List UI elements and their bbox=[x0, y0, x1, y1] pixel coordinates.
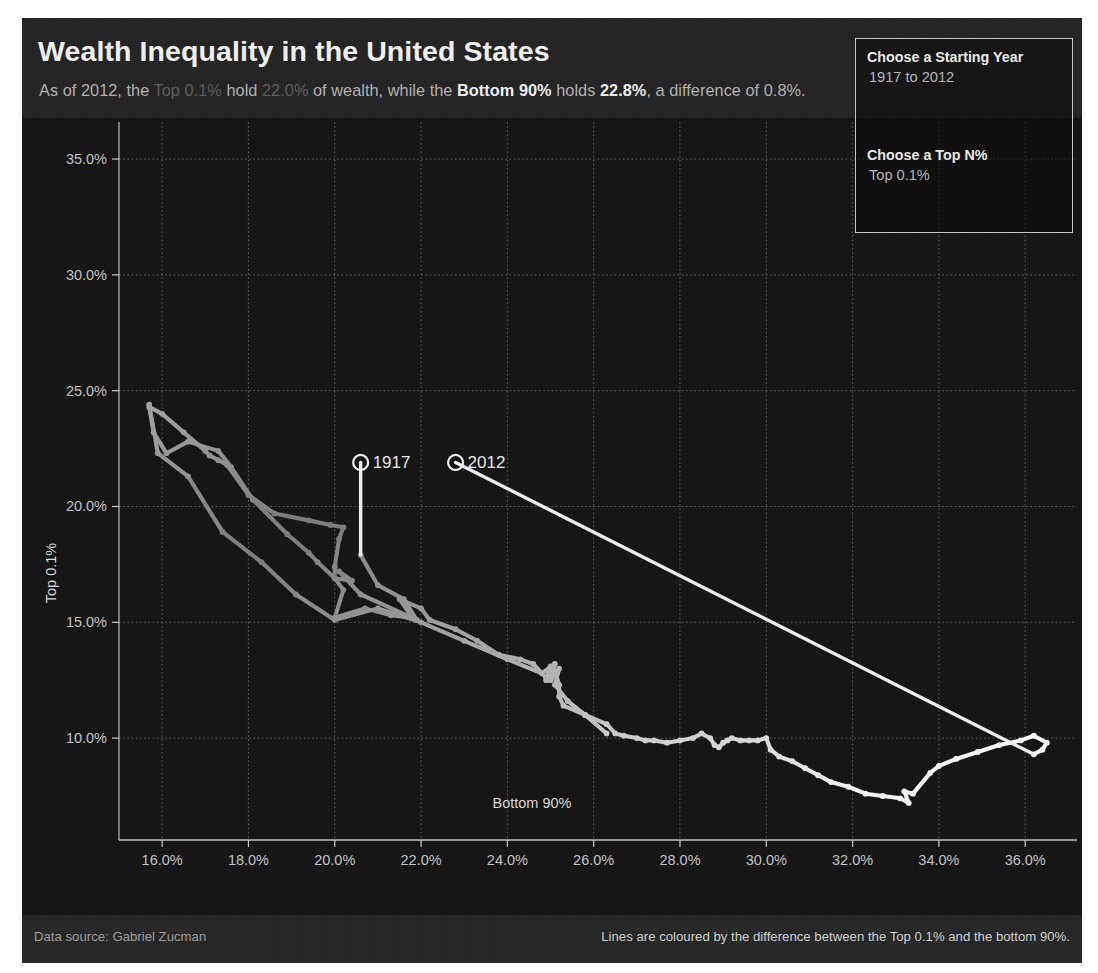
data-point-marker bbox=[1018, 738, 1024, 744]
data-point-marker bbox=[707, 735, 713, 741]
data-point-marker bbox=[927, 770, 933, 776]
data-point-marker bbox=[271, 511, 277, 517]
data-point-marker bbox=[306, 517, 312, 523]
data-point-marker bbox=[643, 738, 649, 744]
series-segment bbox=[296, 594, 335, 619]
data-point-marker bbox=[738, 738, 744, 744]
data-point-marker bbox=[185, 439, 191, 445]
data-point-marker bbox=[517, 656, 523, 662]
data-point-marker bbox=[906, 800, 912, 806]
data-point-marker bbox=[306, 550, 312, 556]
data-point-marker bbox=[146, 402, 152, 408]
data-point-marker bbox=[155, 450, 161, 456]
data-point-marker bbox=[996, 742, 1002, 748]
data-point-marker bbox=[418, 605, 424, 611]
data-point-marker bbox=[375, 605, 381, 611]
x-tick-label: 28.0% bbox=[659, 852, 700, 868]
data-point-marker bbox=[453, 626, 459, 632]
data-point-marker bbox=[336, 536, 342, 542]
data-point-marker bbox=[332, 575, 338, 581]
data-point-marker bbox=[328, 522, 334, 528]
data-point-marker bbox=[388, 612, 394, 618]
data-point-markers bbox=[146, 402, 1049, 806]
data-point-marker bbox=[202, 448, 208, 454]
controls-panel[interactable]: Choose a Starting Year 1917 to 2012 Choo… bbox=[855, 38, 1073, 233]
data-point-marker bbox=[151, 429, 157, 435]
data-point-marker bbox=[474, 638, 480, 644]
series-segment bbox=[978, 745, 1000, 752]
data-point-marker bbox=[789, 758, 795, 764]
data-point-marker bbox=[612, 731, 618, 737]
tick-marks bbox=[112, 159, 1025, 847]
data-point-marker bbox=[690, 735, 696, 741]
series-paths bbox=[149, 405, 1047, 803]
data-point-marker bbox=[315, 559, 321, 565]
series-segment bbox=[318, 562, 335, 578]
data-point-marker bbox=[880, 793, 886, 799]
y-tick-label: 25.0% bbox=[66, 383, 107, 399]
data-point-marker bbox=[699, 731, 705, 737]
data-point-marker bbox=[716, 744, 722, 750]
data-point-marker bbox=[1044, 740, 1050, 746]
y-axis-title: Top 0.1% bbox=[43, 543, 59, 604]
series-segment bbox=[274, 513, 309, 520]
data-point-marker bbox=[224, 462, 230, 468]
data-point-marker bbox=[763, 735, 769, 741]
x-axis-title: Bottom 90% bbox=[493, 795, 572, 811]
data-point-marker bbox=[284, 531, 290, 537]
data-point-marker bbox=[418, 619, 424, 625]
tick-labels: 16.0%18.0%20.0%22.0%24.0%26.0%28.0%30.0%… bbox=[66, 151, 1046, 868]
series-segment bbox=[913, 773, 930, 794]
data-point-marker bbox=[340, 524, 346, 530]
visualization-canvas: 16.0%18.0%20.0%22.0%24.0%26.0%28.0%30.0%… bbox=[22, 18, 1082, 963]
data-point-marker bbox=[332, 617, 338, 623]
data-point-marker bbox=[953, 756, 959, 762]
series-segment bbox=[287, 534, 309, 553]
starting-year-value[interactable]: 1917 to 2012 bbox=[869, 69, 954, 85]
data-point-marker bbox=[556, 694, 562, 700]
y-tick-label: 15.0% bbox=[66, 614, 107, 630]
data-point-marker bbox=[340, 587, 346, 593]
data-point-marker bbox=[729, 735, 735, 741]
data-point-marker bbox=[181, 429, 187, 435]
data-point-marker bbox=[604, 721, 610, 727]
data-point-marker bbox=[215, 448, 221, 454]
series-segment bbox=[158, 453, 188, 476]
data-point-marker bbox=[845, 784, 851, 790]
data-point-marker bbox=[1031, 733, 1037, 739]
data-point-marker bbox=[530, 661, 536, 667]
top-n-value[interactable]: Top 0.1% bbox=[869, 167, 930, 183]
data-point-marker bbox=[220, 529, 226, 535]
data-point-marker bbox=[246, 492, 252, 498]
series-segment bbox=[361, 555, 378, 585]
data-point-marker bbox=[897, 795, 903, 801]
top-n-label: Choose a Top N% bbox=[867, 147, 987, 163]
data-point-marker bbox=[561, 703, 567, 709]
y-tick-label: 10.0% bbox=[66, 730, 107, 746]
data-point-marker bbox=[768, 747, 774, 753]
x-tick-label: 32.0% bbox=[832, 852, 873, 868]
y-tick-label: 30.0% bbox=[66, 267, 107, 283]
data-point-marker bbox=[185, 473, 191, 479]
series-segment bbox=[223, 532, 262, 562]
data-point-marker bbox=[349, 578, 355, 584]
data-point-marker bbox=[604, 731, 610, 737]
data-point-marker bbox=[746, 738, 752, 744]
data-point-marker bbox=[461, 638, 467, 644]
data-point-marker bbox=[159, 411, 165, 417]
data-point-marker bbox=[332, 564, 338, 570]
data-point-marker bbox=[863, 791, 869, 797]
data-point-marker bbox=[496, 652, 502, 658]
x-tick-label: 16.0% bbox=[142, 852, 183, 868]
data-point-marker bbox=[634, 735, 640, 741]
data-point-marker bbox=[539, 670, 545, 676]
y-tick-label: 20.0% bbox=[66, 498, 107, 514]
data-point-marker bbox=[552, 661, 558, 667]
data-point-marker bbox=[556, 666, 562, 672]
x-tick-label: 18.0% bbox=[228, 852, 269, 868]
data-point-marker bbox=[936, 763, 942, 769]
series-segment bbox=[956, 752, 978, 759]
data-point-marker bbox=[293, 592, 299, 598]
data-point-marker bbox=[815, 772, 821, 778]
x-tick-label: 26.0% bbox=[573, 852, 614, 868]
